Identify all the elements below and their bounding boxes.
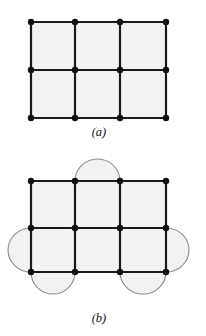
grid-cell	[75, 228, 120, 272]
grid-vertex-node	[163, 178, 169, 184]
grid-vertex-node	[163, 67, 169, 73]
grid-vertex-node	[28, 269, 34, 275]
grid-cell	[31, 181, 75, 228]
grid-cell	[31, 228, 75, 272]
grid-cell	[120, 228, 166, 272]
right-lobe-middle-arc	[166, 228, 189, 272]
figure-b-caption: (b)	[92, 311, 107, 325]
grid-vertex-node	[163, 19, 169, 25]
grid-vertex-node	[28, 67, 34, 73]
grid-vertex-node	[117, 115, 123, 121]
grid-cells-layer	[31, 22, 166, 272]
grid-vertex-node	[28, 19, 34, 25]
grid-vertex-node	[28, 178, 34, 184]
grid-vertex-node	[72, 269, 78, 275]
grid-vertex-node	[117, 225, 123, 231]
grid-vertex-node	[163, 115, 169, 121]
left-lobe-middle-arc	[8, 228, 31, 272]
grid-vertex-node	[72, 67, 78, 73]
grid-vertex-node	[72, 178, 78, 184]
grid-vertex-node	[72, 225, 78, 231]
grid-vertex-node	[28, 225, 34, 231]
grid-vertex-node	[117, 178, 123, 184]
grid-cell	[75, 22, 120, 70]
grid-cell	[120, 181, 166, 228]
bottom-lobe-right-arc	[120, 272, 166, 294]
grid-vertex-node	[72, 19, 78, 25]
grid-cell	[120, 22, 166, 70]
grid-vertex-node	[117, 67, 123, 73]
grid-vertex-node	[72, 115, 78, 121]
figure-canvas: (a)(b)	[0, 0, 206, 336]
grid-vertex-node	[28, 115, 34, 121]
grid-vertex-node	[117, 269, 123, 275]
grid-cell	[75, 181, 120, 228]
top-lobe-middle-arc	[75, 159, 120, 181]
grid-vertex-node	[163, 269, 169, 275]
grid-cell	[31, 22, 75, 70]
figure-panel: (a)(b)	[0, 0, 206, 336]
grid-cell	[31, 70, 75, 118]
grid-vertex-node	[163, 225, 169, 231]
grid-cell	[120, 70, 166, 118]
bottom-lobe-left-arc	[31, 272, 75, 294]
grid-vertex-node	[117, 19, 123, 25]
grid-cell	[75, 70, 120, 118]
figure-a-caption: (a)	[92, 125, 107, 139]
